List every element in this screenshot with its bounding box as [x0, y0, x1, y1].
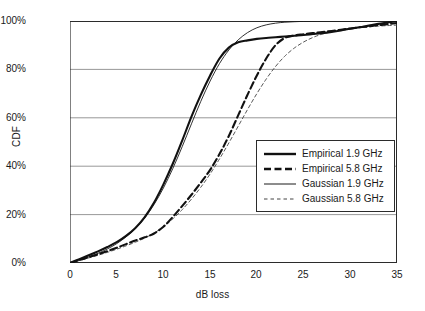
x-tick-label: 35: [382, 270, 412, 280]
legend-swatch-solid-thick: [263, 148, 297, 160]
y-tick-label: 20%: [0, 210, 26, 220]
x-tick-label: 30: [335, 270, 365, 280]
legend-item-empirical-19: Empirical 1.9 GHz: [257, 146, 394, 161]
legend-item-empirical-58: Empirical 5.8 GHz: [257, 161, 394, 176]
legend-label: Gaussian 5.8 GHz: [302, 193, 384, 204]
x-axis-title: dB loss: [0, 289, 425, 300]
legend-item-gaussian-19: Gaussian 1.9 GHz: [257, 176, 394, 191]
chart-legend: Empirical 1.9 GHz Empirical 5.8 GHz Gaus…: [256, 140, 395, 212]
legend-item-gaussian-58: Gaussian 5.8 GHz: [257, 191, 394, 206]
y-tick-label: 80%: [0, 64, 26, 74]
legend-label: Empirical 5.8 GHz: [302, 163, 383, 174]
x-tick-label: 0: [55, 270, 85, 280]
x-tick-label: 25: [288, 270, 318, 280]
cdf-chart-figure: 100% 80% 60% 40% 20% 0% 0 5 10 15 20 25 …: [0, 0, 425, 311]
legend-swatch-solid-thin: [263, 178, 297, 190]
legend-swatch-dashed-thick: [263, 163, 297, 175]
legend-label: Gaussian 1.9 GHz: [302, 178, 384, 189]
x-tick-label: 10: [148, 270, 178, 280]
x-tick-label: 20: [241, 270, 271, 280]
y-tick-label: 0%: [0, 258, 26, 268]
legend-label: Empirical 1.9 GHz: [302, 148, 383, 159]
x-tick-label: 15: [195, 270, 225, 280]
legend-swatch-dashed-thin: [263, 193, 297, 205]
y-tick-label: 100%: [0, 16, 26, 26]
x-tick-label: 5: [101, 270, 131, 280]
y-axis-title: CDF: [11, 107, 22, 167]
